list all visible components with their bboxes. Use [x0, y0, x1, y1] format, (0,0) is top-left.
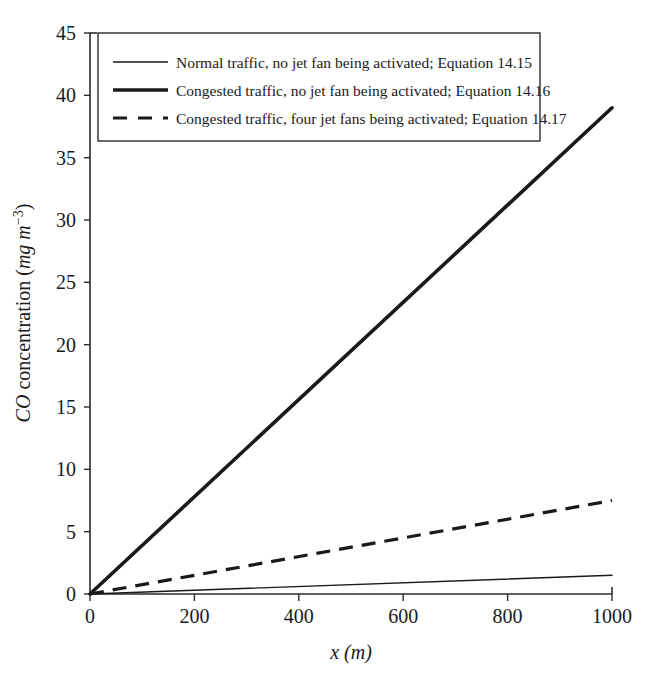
legend-entry-congested-no-fan[interactable]: Congested traffic, no jet fan being acti… — [113, 82, 550, 99]
series-line-congested-four-fans — [90, 501, 612, 595]
x-tick-label: 600 — [388, 605, 418, 627]
legend-entry-congested-four-fans[interactable]: Congested traffic, four jet fans being a… — [113, 110, 567, 127]
y-tick-label: 0 — [66, 583, 76, 605]
x-tick-label: 800 — [493, 605, 523, 627]
x-tick-group: 0 200 400 600 800 1000 — [85, 594, 632, 627]
legend: Normal traffic, no jet fan being activat… — [98, 33, 567, 141]
x-tick-label: 400 — [284, 605, 314, 627]
legend-label: Congested traffic, no jet fan being acti… — [176, 82, 550, 99]
y-tick-label: 5 — [66, 521, 76, 543]
x-tick-label: 200 — [179, 605, 209, 627]
y-axis-title-unit-a: mg — [12, 245, 35, 269]
y-tick-label: 30 — [56, 209, 76, 231]
series-line-congested-no-fan — [90, 108, 612, 594]
y-tick-label: 15 — [56, 396, 76, 418]
y-axis-title-close: ) — [12, 204, 35, 211]
y-tick-label: 45 — [56, 22, 76, 44]
y-axis-title-mid: concentration ( — [12, 269, 35, 395]
legend-label: Congested traffic, four jet fans being a… — [176, 110, 567, 127]
chart-figure: 0 5 10 15 20 25 30 35 40 45 0 200 400 60… — [0, 0, 653, 675]
y-axis-title: CO concentration (mg m−3) — [11, 204, 35, 423]
legend-entry-normal-traffic[interactable]: Normal traffic, no jet fan being activat… — [113, 54, 532, 71]
y-axis-title-sup: −3 — [11, 210, 26, 225]
series-group — [90, 108, 612, 594]
chart-canvas: 0 5 10 15 20 25 30 35 40 45 0 200 400 60… — [0, 0, 653, 675]
y-tick-label: 25 — [56, 271, 76, 293]
y-tick-label: 20 — [56, 334, 76, 356]
y-axis-title-unit-b: m — [12, 225, 34, 239]
y-tick-group: 0 5 10 15 20 25 30 35 40 45 — [56, 22, 90, 605]
x-axis-title: x (m) — [329, 641, 372, 664]
legend-label: Normal traffic, no jet fan being activat… — [176, 54, 532, 71]
x-axis-title-unit: (m) — [344, 641, 372, 664]
x-tick-label: 1000 — [592, 605, 632, 627]
x-tick-label: 0 — [85, 605, 95, 627]
x-axis-title-var: x — [329, 641, 339, 663]
y-tick-label: 10 — [56, 458, 76, 480]
y-tick-label: 35 — [56, 147, 76, 169]
series-line-normal-traffic — [90, 575, 612, 594]
y-tick-label: 40 — [56, 84, 76, 106]
y-axis-title-lead: CO — [12, 395, 34, 423]
